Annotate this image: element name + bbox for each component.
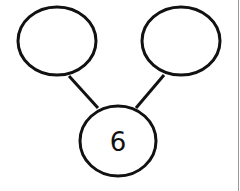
connector-right (136, 75, 164, 108)
part-circle-left (18, 7, 96, 75)
connector-left (69, 76, 98, 108)
whole-value: 6 (110, 127, 127, 157)
number-bond-diagram: 6 (0, 0, 240, 191)
part-circle-right (142, 7, 220, 75)
